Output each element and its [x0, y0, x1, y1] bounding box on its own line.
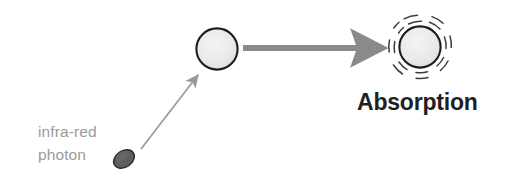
photon-particle [110, 146, 138, 172]
photon-trajectory-arrow [141, 75, 198, 149]
absorption-diagram: infra-red photon [0, 0, 515, 181]
molecule-ground-state [196, 28, 237, 69]
absorption-caption: Absorption [357, 89, 478, 115]
molecule-excited-circle [399, 26, 440, 67]
photon-label-line-1: infra-red [38, 123, 97, 140]
molecule-ground-circle [196, 28, 237, 69]
photon-label-line-2: photon [38, 146, 86, 163]
molecule-excited-state [389, 15, 452, 78]
figure-canvas: infra-red photon [0, 0, 515, 181]
